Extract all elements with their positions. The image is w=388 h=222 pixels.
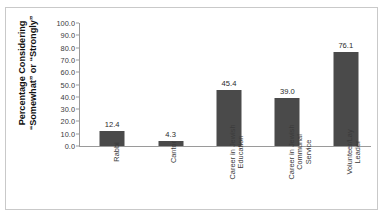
bar-group: 76.1 <box>317 23 375 146</box>
bar-value-label: 4.3 <box>165 130 176 139</box>
chart-figure: Percentage Considering “Somewhat” or “St… <box>5 7 378 210</box>
x-axis-category-line: Service <box>304 140 312 165</box>
x-axis-category-text: Career in JewishEducation <box>229 124 246 179</box>
x-axis-category-text: Cantor <box>171 141 179 163</box>
bar-value-label: 12.4 <box>105 120 120 129</box>
x-axis-category-label: Volunteer/LayLeader <box>317 149 375 205</box>
y-axis-tick-mark <box>76 121 79 122</box>
plot-area: 0.010.020.030.040.050.060.070.080.090.01… <box>79 23 372 161</box>
bar-value-label: 39.0 <box>280 87 295 96</box>
y-axis-tick-mark <box>76 72 79 73</box>
y-axis-title-line-1: Percentage Considering <box>17 21 29 126</box>
x-axis-category-label: Cantor <box>141 149 199 205</box>
x-axis-category-text: Career in JewishCommunalService <box>287 124 312 179</box>
x-axis-category-line: Leader <box>354 140 362 163</box>
x-axis-category-label: Career in JewishCommunalService <box>258 149 316 205</box>
x-axis-category-line: Cantor <box>171 141 179 163</box>
y-axis-tick-mark <box>76 146 79 147</box>
y-axis-tick-mark <box>76 23 79 24</box>
bar-value-label: 45.4 <box>222 79 237 88</box>
bar-group: 4.3 <box>141 23 199 146</box>
y-axis-title: Percentage Considering “Somewhat” or “St… <box>11 7 45 139</box>
y-axis-tick-mark <box>76 47 79 48</box>
y-axis-tick-mark <box>76 133 79 134</box>
y-axis-tick-mark <box>76 59 79 60</box>
x-axis-category-line: Rabbi <box>112 142 120 161</box>
x-axis-line <box>79 146 371 147</box>
y-axis-tick-mark <box>76 35 79 36</box>
bar-value-label: 76.1 <box>338 41 353 50</box>
bar-group: 12.4 <box>83 23 141 146</box>
y-axis-tick-mark <box>76 96 79 97</box>
x-axis-category-text: Rabbi <box>112 142 120 161</box>
x-axis-category-text: Volunteer/LayLeader <box>346 129 363 174</box>
x-axis-category-label: Rabbi <box>83 149 141 205</box>
x-axis-category-label: Career in JewishEducation <box>200 149 258 205</box>
y-axis-line <box>79 23 80 146</box>
y-axis-title-line-2: “Somewhat” or “Strongly” <box>28 16 40 131</box>
x-axis-category-line: Education <box>237 136 245 169</box>
y-axis-tick-mark <box>76 84 79 85</box>
y-axis-tick-mark <box>76 109 79 110</box>
